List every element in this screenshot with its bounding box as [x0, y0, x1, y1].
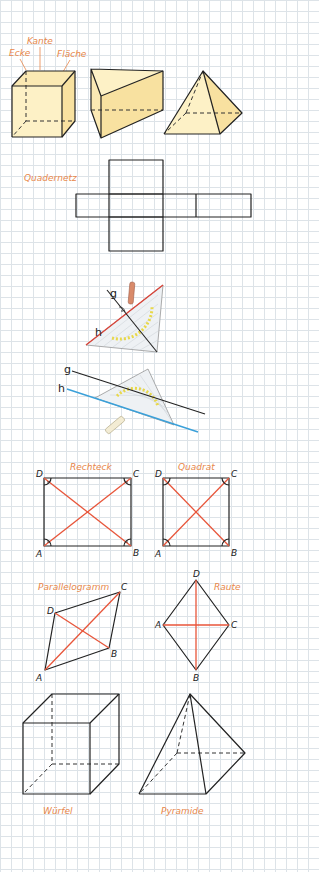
- pyramid-wireframe: Pyramide: [139, 694, 245, 816]
- vertex-d: D: [193, 569, 200, 579]
- set-square-perpendicular: g h: [86, 282, 163, 352]
- pencil-icon: [105, 416, 126, 435]
- net-title: Quadernetz: [24, 173, 77, 183]
- vertex-a: A: [35, 673, 42, 683]
- vertex-c: C: [231, 469, 238, 479]
- vertex-d: D: [155, 469, 162, 479]
- cube-title: Würfel: [43, 806, 73, 816]
- vertex-b: B: [111, 649, 117, 659]
- vertex-b: B: [231, 548, 237, 558]
- label-g-parallel: g: [64, 363, 71, 376]
- cuboid-net: Quadernetz: [24, 160, 251, 251]
- label-h-perpendicular: h: [95, 326, 102, 339]
- square-figure: Quadrat A B C D: [154, 462, 238, 559]
- pyramid-title: Pyramide: [161, 806, 204, 816]
- vertex-c: C: [231, 620, 238, 630]
- pointer-ecke: [20, 59, 26, 70]
- set-square-parallel: g h: [58, 363, 205, 434]
- label-flaeche: Fläche: [57, 49, 87, 59]
- rectangle-title: Rechteck: [70, 462, 112, 472]
- cuboid-solid: [12, 71, 75, 137]
- vertex-d: D: [47, 606, 54, 616]
- pyramid-solid: [164, 71, 242, 134]
- label-h-parallel: h: [58, 382, 65, 395]
- vertex-a: A: [154, 549, 161, 559]
- vertex-c: C: [133, 469, 140, 479]
- vertex-b: B: [193, 673, 199, 683]
- cube-wireframe: Würfel: [23, 694, 119, 816]
- parallelogram-figure: Parallelogramm A B C D: [35, 582, 128, 683]
- vertex-a: A: [154, 620, 161, 630]
- vertex-d: D: [36, 469, 43, 479]
- geometry-sheet: Kante Ecke Fläche: [0, 0, 269, 872]
- rectangle-figure: Rechteck A B C D: [35, 462, 140, 559]
- solids-row: Kante Ecke Fläche: [9, 36, 242, 138]
- rhombus-figure: Raute A B C D: [154, 569, 241, 683]
- label-g-perpendicular: g: [110, 287, 117, 300]
- parallelogram-title: Parallelogramm: [38, 582, 109, 592]
- label-kante: Kante: [27, 36, 53, 46]
- square-title: Quadrat: [178, 462, 215, 472]
- triangular-prism-solid: [91, 69, 163, 138]
- vertex-b: B: [133, 548, 139, 558]
- vertex-c: C: [121, 582, 128, 592]
- pencil-icon: [128, 282, 135, 304]
- label-ecke: Ecke: [9, 48, 31, 58]
- rhombus-title: Raute: [214, 582, 241, 592]
- vertex-a: A: [35, 549, 42, 559]
